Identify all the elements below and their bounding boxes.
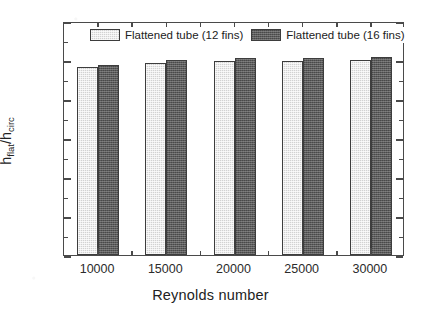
light-hatched-swatch — [90, 29, 120, 41]
y-axis-tick — [396, 22, 403, 24]
bar-flattened-tube-12-fins--15000 — [145, 63, 166, 255]
y-axis-minor-tick — [399, 120, 403, 122]
x-axis-tick-label: 20000 — [216, 262, 251, 276]
y-axis-tick — [64, 139, 71, 141]
y-axis-title-base2: h — [0, 132, 14, 140]
x-axis-tick-label: 10000 — [80, 262, 115, 276]
y-axis-tick — [64, 256, 71, 258]
legend-label: Flattened tube (16 fins) — [286, 29, 404, 41]
x-axis-minor-tick — [131, 251, 133, 255]
x-axis-tick — [166, 248, 168, 255]
y-axis-tick — [396, 178, 403, 180]
y-axis-tick — [396, 139, 403, 141]
legend-entry: Flattened tube (12 fins) — [90, 29, 243, 41]
bar-flattened-tube-12-fins--10000 — [77, 67, 98, 255]
y-axis-minor-tick — [399, 198, 403, 200]
y-axis-minor-tick — [64, 237, 68, 239]
y-axis-title-slash: / — [0, 140, 14, 144]
y-axis-tick — [64, 217, 71, 219]
bar-flattened-tube-12-fins--30000 — [350, 60, 371, 255]
x-axis-tick — [302, 248, 304, 255]
y-axis-minor-tick — [64, 42, 68, 44]
legend-label: Flattened tube (12 fins) — [125, 29, 243, 41]
y-axis-minor-tick — [64, 120, 68, 122]
y-axis-tick — [396, 217, 403, 219]
bar-flattened-tube-16-fins--20000 — [235, 58, 256, 255]
bar-flattened-tube-12-fins--20000 — [214, 61, 235, 255]
bar-chart: 0.00.51.01.52.02.53.0 100001500020000250… — [0, 0, 421, 316]
y-axis-minor-tick — [399, 81, 403, 83]
bar-flattened-tube-16-fins--30000 — [371, 57, 392, 255]
y-axis-tick — [64, 100, 71, 102]
dark-hatched-swatch — [251, 29, 281, 41]
x-axis-tick — [234, 248, 236, 255]
y-axis-title-base1: h — [0, 157, 14, 165]
x-axis-minor-tick — [200, 251, 202, 255]
y-axis-minor-tick — [64, 81, 68, 83]
y-axis-tick — [396, 256, 403, 258]
bar-flattened-tube-16-fins--25000 — [303, 58, 324, 255]
plot-area — [63, 22, 404, 256]
x-axis-minor-tick — [268, 251, 270, 255]
y-axis-minor-tick — [399, 159, 403, 161]
bar-flattened-tube-12-fins--25000 — [282, 61, 303, 255]
bar-flattened-tube-16-fins--10000 — [98, 65, 119, 255]
y-axis-minor-tick — [64, 198, 68, 200]
y-axis-minor-tick — [399, 237, 403, 239]
bar-series-container — [64, 23, 403, 255]
y-axis-tick — [64, 61, 71, 63]
x-axis-tick-label: 15000 — [148, 262, 183, 276]
x-axis-tick-label: 30000 — [353, 262, 388, 276]
x-axis-tick-label: 25000 — [284, 262, 319, 276]
y-axis-title-sub2: circ — [5, 117, 16, 132]
y-axis-title-sub1: flat — [5, 144, 16, 157]
y-axis-tick — [396, 100, 403, 102]
x-axis-tick — [370, 248, 372, 255]
x-axis-minor-tick — [336, 251, 338, 255]
legend-entry: Flattened tube (16 fins) — [251, 29, 404, 41]
bar-flattened-tube-16-fins--15000 — [166, 60, 187, 255]
y-axis-tick — [64, 178, 71, 180]
x-axis-tick — [97, 248, 99, 255]
y-axis-tick — [396, 61, 403, 63]
y-axis-tick — [64, 22, 71, 24]
y-axis-title: hflat/hcirc — [0, 117, 16, 165]
x-axis-title: Reynolds number — [0, 287, 421, 303]
y-axis-minor-tick — [64, 159, 68, 161]
chart-legend: Flattened tube (12 fins)Flattened tube (… — [86, 27, 409, 43]
